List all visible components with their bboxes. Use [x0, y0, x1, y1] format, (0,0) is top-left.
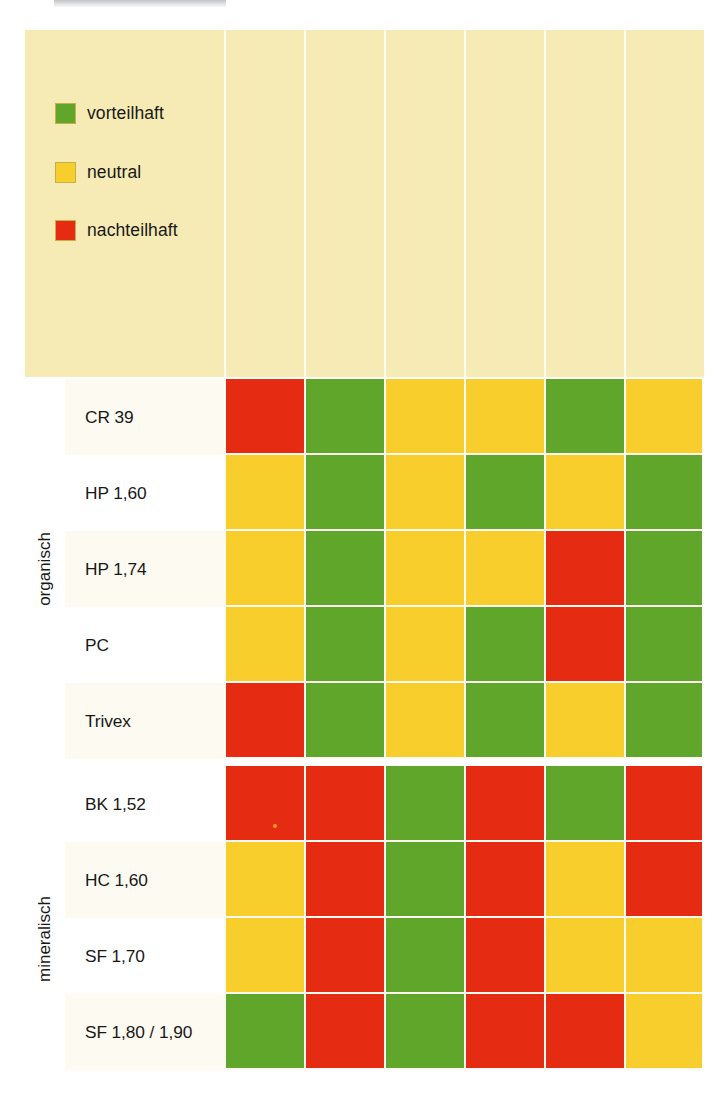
green-swatch [55, 103, 76, 124]
table-row[interactable]: CR 39 [25, 379, 702, 455]
matrix-cell[interactable] [464, 379, 544, 455]
matrix-cell[interactable] [304, 607, 384, 683]
matrix-cell[interactable] [224, 379, 304, 455]
matrix-cell[interactable] [624, 607, 702, 683]
matrix-cell[interactable] [304, 379, 384, 455]
row-label: HP 1,74 [85, 559, 146, 580]
matrix-cell[interactable] [544, 455, 624, 531]
matrix-cell[interactable] [544, 994, 624, 1070]
table-row[interactable]: SF 1,80 / 1,90 [25, 994, 702, 1070]
matrix-cell[interactable] [304, 842, 384, 918]
matrix-cell[interactable] [224, 607, 304, 683]
matrix-cell[interactable] [384, 766, 464, 842]
table-row[interactable]: Trivex [25, 683, 702, 759]
matrix-cell[interactable] [464, 842, 544, 918]
row-label-cell: HC 1,60 [65, 842, 224, 918]
matrix-cell[interactable] [464, 766, 544, 842]
row-cells [224, 455, 702, 531]
row-label: HP 1,60 [85, 483, 146, 504]
matrix-cell[interactable] [624, 683, 702, 759]
matrix-cell[interactable] [304, 766, 384, 842]
matrix-cell[interactable] [384, 379, 464, 455]
row-label-cell: BK 1,52 [65, 766, 224, 842]
red-swatch [55, 220, 76, 241]
row-cells [224, 683, 702, 759]
row-cells [224, 918, 702, 994]
scan-speckle [273, 824, 277, 828]
matrix-cell[interactable] [624, 842, 702, 918]
row-label: PC [85, 635, 109, 656]
row-label-cell: SF 1,80 / 1,90 [65, 994, 224, 1070]
table-row[interactable]: SF 1,70 [25, 918, 702, 994]
table-row[interactable]: BK 1,52 [25, 766, 702, 842]
column-header-glaskruemmung: Glaskrümmung (ohne Asphäre) [224, 30, 306, 377]
matrix-cell[interactable] [304, 994, 384, 1070]
matrix-cell[interactable] [624, 531, 702, 607]
matrix-cell[interactable] [544, 683, 624, 759]
matrix-cell[interactable] [224, 531, 304, 607]
row-label-cell: SF 1,70 [65, 918, 224, 994]
matrix-cell[interactable] [544, 766, 624, 842]
column-header-farbsaeume: Farbsäume [544, 30, 626, 377]
material-properties-matrix: vorteilhaft neutral nachteilhaft Glaskrü… [0, 0, 724, 1115]
matrix-cell[interactable] [224, 766, 304, 842]
matrix-cell[interactable] [224, 918, 304, 994]
matrix-cell[interactable] [624, 766, 702, 842]
row-label-cell: HP 1,74 [65, 531, 224, 607]
matrix-cell[interactable] [624, 379, 702, 455]
row-cells [224, 379, 702, 455]
matrix-cell[interactable] [464, 607, 544, 683]
matrix-cell[interactable] [624, 918, 702, 994]
matrix-cell[interactable] [384, 683, 464, 759]
row-label: CR 39 [85, 407, 133, 428]
matrix-cell[interactable] [464, 455, 544, 531]
legend-item-vorteilhaft: vorteilhaft [55, 103, 164, 124]
matrix-cell[interactable] [464, 918, 544, 994]
matrix-cell[interactable] [464, 683, 544, 759]
matrix-cell[interactable] [384, 994, 464, 1070]
matrix-cell[interactable] [544, 842, 624, 918]
table-row[interactable]: HC 1,60 [25, 842, 702, 918]
column-header-kratzempfindlichkeit: Kratzempfindlichkeit (organische Gläser … [384, 30, 466, 377]
row-label: HC 1,60 [85, 870, 148, 891]
matrix-cell[interactable] [304, 683, 384, 759]
matrix-cell[interactable] [464, 994, 544, 1070]
row-label: SF 1,80 / 1,90 [85, 1022, 192, 1043]
legend-item-nachteilhaft: nachteilhaft [55, 220, 178, 241]
matrix-cell[interactable] [624, 994, 702, 1070]
matrix-cell[interactable] [224, 455, 304, 531]
matrix-cell[interactable] [544, 607, 624, 683]
table-row[interactable]: HP 1,74 [25, 531, 702, 607]
matrix-cell[interactable] [304, 918, 384, 994]
row-cells [224, 994, 702, 1070]
row-label-cell: Trivex [65, 683, 224, 759]
row-label: BK 1,52 [85, 794, 146, 815]
matrix-cell[interactable] [304, 455, 384, 531]
legend-label: nachteilhaft [87, 220, 178, 241]
column-header-uv-schutz: UV-Schutz [624, 30, 704, 377]
row-label-cell: HP 1,60 [65, 455, 224, 531]
matrix-cell[interactable] [384, 531, 464, 607]
table-row[interactable]: HP 1,60 [25, 455, 702, 531]
matrix-cell[interactable] [624, 455, 702, 531]
matrix-cell[interactable] [384, 607, 464, 683]
matrix-cell[interactable] [224, 994, 304, 1070]
row-label: SF 1,70 [85, 946, 145, 967]
matrix-cell[interactable] [544, 531, 624, 607]
matrix-cell[interactable] [224, 842, 304, 918]
matrix-cell[interactable] [544, 918, 624, 994]
matrix-cell[interactable] [384, 455, 464, 531]
matrix-cell[interactable] [384, 918, 464, 994]
row-cells [224, 842, 702, 918]
table-row[interactable]: PC [25, 607, 702, 683]
column-header-gewicht: Gewicht [304, 30, 386, 377]
row-label-cell: CR 39 [65, 379, 224, 455]
matrix-cell[interactable] [304, 531, 384, 607]
row-label: Trivex [85, 711, 131, 732]
matrix-cell[interactable] [544, 379, 624, 455]
matrix-cell[interactable] [224, 683, 304, 759]
legend-panel: vorteilhaft neutral nachteilhaft [25, 30, 224, 377]
column-header-bruchsicherheit: Bruchsicherheit [464, 30, 546, 377]
matrix-cell[interactable] [384, 842, 464, 918]
matrix-cell[interactable] [464, 531, 544, 607]
